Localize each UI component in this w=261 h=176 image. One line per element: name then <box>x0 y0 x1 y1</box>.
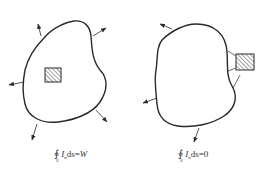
integral-subscript: S <box>180 158 183 163</box>
source-square-inside <box>45 68 61 82</box>
flux-arrow-icon <box>93 28 106 36</box>
differential: ds <box>191 149 199 159</box>
left-panel <box>9 21 107 140</box>
ray-line <box>228 51 236 56</box>
formula-result: W <box>80 149 88 159</box>
flux-arrow-icon <box>96 110 107 122</box>
flux-arrow-icon <box>38 24 41 36</box>
flux-arrow-icon <box>32 124 37 140</box>
right-panel <box>143 24 254 142</box>
formula-result: 0 <box>204 149 209 159</box>
flux-arrow-icon <box>194 128 199 142</box>
source-square-outside <box>236 54 254 70</box>
closed-surface-right <box>155 24 235 127</box>
formula-right: ∮S Inds=0 <box>178 148 208 160</box>
ray-line <box>233 75 240 88</box>
flux-arrow-icon <box>160 24 172 29</box>
differential: ds <box>67 149 75 159</box>
flux-arrow-icon <box>143 98 157 103</box>
ray-line <box>228 68 236 71</box>
diagram-canvas <box>0 0 261 176</box>
flux-arrow-icon <box>9 82 24 85</box>
integral-subscript: S <box>56 158 59 163</box>
formula-left: ∮S Inds=W <box>54 148 87 160</box>
